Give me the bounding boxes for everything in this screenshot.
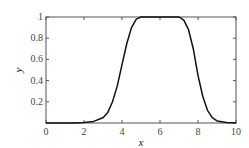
line-chart: 02468100.20.40.60.81xy: [0, 0, 249, 148]
data-line: [46, 17, 236, 123]
plot-frame: [46, 17, 236, 123]
x-tick-label: 10: [231, 126, 241, 137]
y-tick-label: 1: [38, 11, 43, 22]
y-tick-label: 0.6: [31, 53, 44, 64]
x-tick-label: 6: [158, 126, 163, 137]
x-tick-label: 0: [44, 126, 49, 137]
x-axis-label: x: [138, 136, 144, 148]
x-tick-label: 8: [196, 126, 201, 137]
x-tick-label: 2: [82, 126, 87, 137]
y-tick-label: 0.4: [31, 75, 44, 86]
x-tick-label: 4: [120, 126, 125, 137]
y-axis-label: y: [12, 67, 24, 73]
y-tick-label: 0.2: [31, 96, 44, 107]
y-tick-label: 0.8: [31, 32, 44, 43]
